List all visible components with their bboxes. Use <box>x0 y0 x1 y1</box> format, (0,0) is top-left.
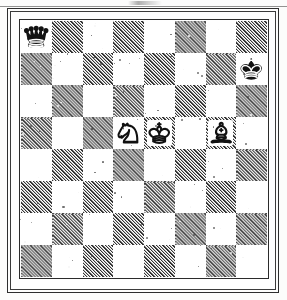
scan-speckle <box>119 59 121 61</box>
scan-speckle <box>102 256 103 257</box>
board-square-a4[interactable] <box>21 149 52 181</box>
board-square-c6[interactable] <box>83 85 114 117</box>
scan-speckle <box>188 35 190 37</box>
board-square-h3[interactable] <box>236 181 267 213</box>
board-square-c5[interactable] <box>83 117 114 149</box>
board-square-g8[interactable] <box>206 21 237 53</box>
board-square-g4[interactable] <box>206 149 237 181</box>
board-square-e4[interactable] <box>144 149 175 181</box>
board-square-h7[interactable] <box>236 53 267 85</box>
board-square-c3[interactable] <box>83 181 114 213</box>
board-square-d6[interactable] <box>113 85 144 117</box>
scan-speckle <box>78 192 79 193</box>
board-square-f1[interactable] <box>175 245 206 277</box>
board-square-d5[interactable] <box>113 117 144 149</box>
board-square-g2[interactable] <box>206 213 237 245</box>
piece-knockout-e5 <box>147 120 172 146</box>
board-square-h6[interactable] <box>236 85 267 117</box>
board-square-b1[interactable] <box>52 245 83 277</box>
board-square-g3[interactable] <box>206 181 237 213</box>
scan-speckle <box>183 69 184 70</box>
board-square-d8[interactable] <box>113 21 144 53</box>
scan-speckle <box>213 116 215 118</box>
board-square-a1[interactable] <box>21 245 52 277</box>
white-knight-icon[interactable] <box>113 117 144 149</box>
scan-speckle <box>46 139 47 140</box>
board-square-g1[interactable] <box>206 245 237 277</box>
board-square-b6[interactable] <box>52 85 83 117</box>
board-square-e1[interactable] <box>144 245 175 277</box>
scan-speckle <box>186 112 188 114</box>
board-square-e2[interactable] <box>144 213 175 245</box>
scan-speckle <box>235 193 237 195</box>
board-square-e5[interactable] <box>144 117 175 149</box>
scan-speckle <box>250 114 252 116</box>
black-king-icon[interactable] <box>236 53 267 85</box>
board-square-b7[interactable] <box>52 53 83 85</box>
board-square-a5[interactable] <box>21 117 52 149</box>
scan-speckle <box>243 123 244 124</box>
scan-speckle <box>122 215 123 216</box>
board-square-b5[interactable] <box>52 117 83 149</box>
board-square-e8[interactable] <box>144 21 175 53</box>
board-square-f8[interactable] <box>175 21 206 53</box>
board-square-g5[interactable] <box>206 117 237 149</box>
board-square-g6[interactable] <box>206 85 237 117</box>
scan-speckle <box>27 119 28 120</box>
scan-speckle <box>121 196 122 197</box>
board-square-f2[interactable] <box>175 213 206 245</box>
board-square-f7[interactable] <box>175 53 206 85</box>
scan-speckle <box>201 75 203 77</box>
scan-speckle <box>37 203 38 204</box>
scan-speckle <box>97 260 98 261</box>
scan-speckle <box>160 254 161 255</box>
scan-speckle <box>100 63 101 64</box>
board-square-h5[interactable] <box>236 117 267 149</box>
board-square-h1[interactable] <box>236 245 267 277</box>
board-square-c4[interactable] <box>83 149 114 181</box>
black-queen-icon[interactable] <box>21 21 52 53</box>
scan-speckle <box>91 35 92 36</box>
board-square-a2[interactable] <box>21 213 52 245</box>
scan-speckle <box>157 110 158 111</box>
scan-speckle <box>115 94 116 95</box>
board-square-h2[interactable] <box>236 213 267 245</box>
board-square-a3[interactable] <box>21 181 52 213</box>
scan-smudge-artifact <box>128 1 162 5</box>
board-square-f5[interactable] <box>175 117 206 149</box>
board-square-f4[interactable] <box>175 149 206 181</box>
board-square-c8[interactable] <box>83 21 114 53</box>
scan-speckle <box>146 237 148 239</box>
board-square-g7[interactable] <box>206 53 237 85</box>
scan-speckle <box>114 53 116 55</box>
board-square-d4[interactable] <box>113 149 144 181</box>
board-square-b4[interactable] <box>52 149 83 181</box>
scan-speckle <box>199 118 201 120</box>
board-square-b2[interactable] <box>52 213 83 245</box>
scan-speckle <box>208 90 209 91</box>
scan-speckle <box>175 271 176 272</box>
scan-speckle <box>245 143 247 145</box>
board-square-f3[interactable] <box>175 181 206 213</box>
board-square-h4[interactable] <box>236 149 267 181</box>
board-square-e3[interactable] <box>144 181 175 213</box>
board-square-d3[interactable] <box>113 181 144 213</box>
scan-speckle <box>243 73 245 75</box>
scan-speckle <box>31 222 32 223</box>
board-square-d1[interactable] <box>113 245 144 277</box>
scan-speckle <box>179 221 181 223</box>
board-square-a8[interactable] <box>21 21 52 53</box>
scan-speckle <box>43 45 44 46</box>
board-square-b3[interactable] <box>52 181 83 213</box>
board-square-e7[interactable] <box>144 53 175 85</box>
board-square-b8[interactable] <box>52 21 83 53</box>
board-square-a7[interactable] <box>21 53 52 85</box>
board-square-c7[interactable] <box>83 53 114 85</box>
board-square-e6[interactable] <box>144 85 175 117</box>
board-square-c2[interactable] <box>83 213 114 245</box>
board-square-c1[interactable] <box>83 245 114 277</box>
board-square-h8[interactable] <box>236 21 267 53</box>
scan-speckle <box>62 206 64 208</box>
board-square-d2[interactable] <box>113 213 144 245</box>
board-square-a6[interactable] <box>21 85 52 117</box>
